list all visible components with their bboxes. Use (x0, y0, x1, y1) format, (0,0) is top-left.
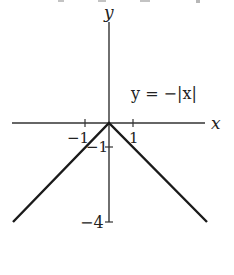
y-axis-label: y (103, 2, 114, 22)
graph-figure: y x y = −|x| −1 1 −1 −4 (0, 0, 234, 275)
y-tick-label-neg4: −4 (80, 213, 104, 232)
top-text-remnant (58, 0, 200, 3)
absolute-value-graph: y x y = −|x| −1 1 −1 −4 (0, 0, 234, 275)
y-tick-label-neg1: −1 (86, 138, 108, 156)
curve-neg-abs-x (13, 123, 207, 222)
x-tick-label-pos1: 1 (129, 129, 139, 147)
equation-label: y = −|x| (130, 84, 197, 103)
x-axis-label: x (211, 113, 221, 133)
